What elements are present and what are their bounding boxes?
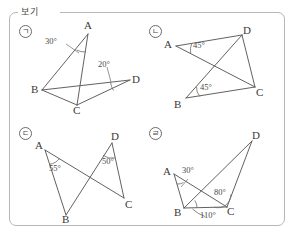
vertex-label-C: C <box>73 105 80 116</box>
angle-leader-D <box>107 67 111 82</box>
figure-panel-1: ㄱ A B C D 30° 20° <box>18 24 144 116</box>
vertex-label-C: C <box>227 206 234 217</box>
angle-label-C-outer: 110° <box>200 211 216 220</box>
segment-AB <box>45 150 66 215</box>
angle-label-A: 45° <box>193 41 205 50</box>
vertex-label-B: B <box>174 99 181 110</box>
segment-AD <box>176 35 242 46</box>
angle-label-C-inner: 80° <box>214 188 226 197</box>
example-box-label: 보기 <box>21 6 38 19</box>
segment-BC <box>42 90 77 105</box>
angle-label-A: 30° <box>45 37 57 46</box>
figure-panel-4: ㄹ A D B C 30° 80° 110° <box>148 126 278 222</box>
figure-marker-1: ㄱ <box>19 25 32 38</box>
segment-CD <box>77 80 130 105</box>
segment-DC <box>112 143 124 198</box>
vertex-label-D: D <box>243 25 251 36</box>
vertex-label-D: D <box>132 74 140 85</box>
figure-panel-3: ㄷ A D B C 55° 50° <box>18 126 144 222</box>
angle-arc-B <box>195 200 197 207</box>
angle-label-A: 55° <box>49 164 61 173</box>
angle-arc-A <box>77 50 87 52</box>
vertex-label-B: B <box>62 214 69 225</box>
segment-DC <box>242 35 255 87</box>
segment-BD <box>184 141 252 208</box>
vertex-label-C: C <box>125 199 132 210</box>
angle-arc-A <box>177 183 184 185</box>
vertex-label-A: A <box>84 20 92 31</box>
figure-marker-3: ㄷ <box>19 127 32 140</box>
figure-marker-2: ㄴ <box>149 25 162 38</box>
vertex-label-D: D <box>111 131 119 142</box>
vertex-label-B: B <box>174 207 181 218</box>
segment-AC <box>176 46 255 87</box>
angle-label-A: 30° <box>182 166 194 175</box>
figure-marker-4: ㄹ <box>149 127 162 140</box>
vertex-label-A: A <box>164 39 172 50</box>
vertex-label-B: B <box>31 84 38 95</box>
vertex-label-A: A <box>163 166 171 177</box>
angle-label-D: 50° <box>102 157 114 166</box>
vertex-label-A: A <box>35 140 43 151</box>
figure-panel-2: ㄴ A D B C 45° 45° <box>148 24 278 116</box>
vertex-label-C: C <box>256 87 263 98</box>
angle-label-B: 45° <box>200 83 212 92</box>
screenshot-root: 보기 ㄱ A B C D 30° 20° ㄴ <box>0 0 296 242</box>
angle-leader-A <box>66 44 79 53</box>
vertex-label-D: D <box>252 130 260 141</box>
angle-label-D: 20° <box>98 60 110 69</box>
segment-DB <box>66 143 112 215</box>
figure-drawing-1 <box>18 24 144 116</box>
angle-arc-A <box>190 43 191 53</box>
segment-BD <box>42 80 130 90</box>
